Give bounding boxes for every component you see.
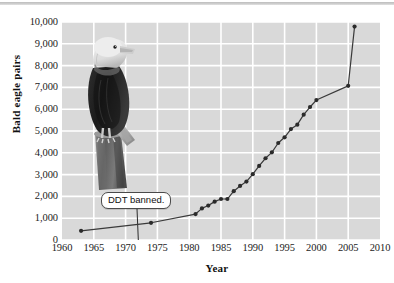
data-point-marker	[352, 24, 356, 28]
x-tick-label: 1995	[274, 243, 295, 254]
y-axis-tick-labels: 01,0002,0003,0004,0005,0006,0007,0008,00…	[0, 22, 58, 240]
data-point-marker	[295, 123, 299, 127]
x-tick-label: 2000	[306, 243, 327, 254]
y-tick-label: 3,000	[0, 169, 58, 180]
plot-area: DDT banned.	[62, 22, 380, 240]
data-point-marker	[276, 141, 280, 145]
data-point-marker	[206, 203, 210, 207]
y-tick-label: 5,000	[0, 126, 58, 137]
data-point-marker	[213, 200, 217, 204]
top-divider-rule	[0, 2, 394, 5]
x-tick-label: 1990	[242, 243, 263, 254]
data-point-marker	[149, 221, 153, 225]
x-tick-label: 1975	[147, 243, 168, 254]
ddt-banned-callout: DDT banned.	[101, 192, 171, 209]
data-point-marker	[238, 184, 242, 188]
x-tick-label: 1965	[83, 243, 104, 254]
data-point-marker	[232, 189, 236, 193]
y-tick-label: 6,000	[0, 104, 58, 115]
x-axis-tick-labels: 1960196519701975198019851990199520002005…	[0, 243, 394, 257]
x-tick-label: 1980	[179, 243, 200, 254]
data-point-marker	[314, 98, 318, 102]
bald-eagle-photo	[75, 28, 147, 191]
data-point-marker	[283, 135, 287, 139]
y-tick-label: 10,000	[0, 17, 58, 28]
x-tick-label: 1985	[211, 243, 232, 254]
data-point-marker	[257, 164, 261, 168]
data-point-marker	[251, 172, 255, 176]
y-tick-label: 2,000	[0, 191, 58, 202]
x-tick-label: 2005	[338, 243, 359, 254]
data-point-marker	[219, 197, 223, 201]
data-point-marker	[308, 105, 312, 109]
y-tick-label: 1,000	[0, 213, 58, 224]
x-tick-label: 1960	[52, 243, 73, 254]
callout-text: DDT banned.	[108, 194, 164, 205]
data-point-marker	[225, 197, 229, 201]
x-tick-label: 1970	[115, 243, 136, 254]
x-tick-label: 2010	[370, 243, 391, 254]
data-point-marker	[289, 127, 293, 131]
y-tick-label: 8,000	[0, 60, 58, 71]
data-point-marker	[302, 113, 306, 117]
data-point-marker	[244, 179, 248, 183]
y-tick-label: 4,000	[0, 148, 58, 159]
data-point-marker	[200, 206, 204, 210]
y-tick-label: 7,000	[0, 82, 58, 93]
bald-eagle-population-figure: Bald eagle pairs 01,0002,0003,0004,0005,…	[0, 0, 394, 283]
y-tick-label: 9,000	[0, 39, 58, 50]
data-point-marker	[193, 212, 197, 216]
data-point-marker	[79, 229, 83, 233]
data-point-marker	[270, 150, 274, 154]
data-point-marker	[346, 84, 350, 88]
data-point-marker	[263, 156, 267, 160]
x-axis-title: Year	[0, 262, 394, 274]
